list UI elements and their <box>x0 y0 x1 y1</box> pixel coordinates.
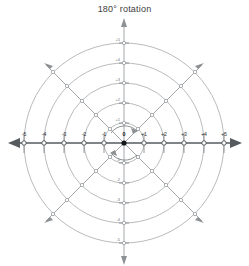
marker-diag-ne1 <box>136 127 139 130</box>
marker-diag-nw1 <box>108 127 111 130</box>
marker-diag-sw2 <box>94 169 97 172</box>
marker-diag-ne2 <box>150 113 153 116</box>
marker-x-plus4 <box>202 141 206 145</box>
label-y-minus2: -2 <box>116 177 120 182</box>
label-y-minus3: -3 <box>116 197 120 202</box>
label-y-plus2: +2 <box>115 97 120 102</box>
marker-x-minus3 <box>62 141 66 145</box>
marker-x-minus2 <box>82 141 86 145</box>
label-y-minus5: -5 <box>116 237 120 242</box>
diagonal-arrow-lower-left <box>44 217 53 223</box>
label-x-plus5: +5 <box>221 131 227 137</box>
horizontal-arrow-left <box>8 138 20 148</box>
marker-x-minus4 <box>42 141 46 145</box>
label-x-minus5: -5 <box>22 131 27 137</box>
marker-y-minus5 <box>122 241 125 244</box>
marker-diag-nw2 <box>94 113 97 116</box>
marker-diag-nw5 <box>51 70 54 73</box>
label-x-plus1: +1 <box>141 131 147 137</box>
marker-x-plus3 <box>182 141 186 145</box>
label-y-plus4: +4 <box>115 57 120 62</box>
marker-y-minus1 <box>122 161 125 164</box>
horizontal-arrow-right <box>230 138 242 148</box>
marker-diag-sw4 <box>65 198 68 201</box>
label-x-plus4: +4 <box>201 131 207 137</box>
label-y-minus4: -4 <box>116 217 120 222</box>
diagonal-arrow-upper-left <box>44 63 53 69</box>
polar-grid-canvas: -5 -4 -3 -2 -1 +1 +2 +3 +4 +5 +1 +2 +3 +… <box>0 0 249 266</box>
marker-y-plus5 <box>122 41 125 44</box>
marker-x-minus1 <box>102 141 106 145</box>
marker-y-plus3 <box>122 81 125 84</box>
marker-diag-se4 <box>179 198 182 201</box>
label-x-minus4: -4 <box>42 131 47 137</box>
marker-y-minus4 <box>122 221 125 224</box>
marker-y-plus4 <box>122 61 125 64</box>
label-x-minus3: -3 <box>62 131 67 137</box>
marker-diag-se5 <box>193 212 196 215</box>
label-x-minus2: -2 <box>82 131 87 137</box>
label-y-plus1: +1 <box>115 117 120 122</box>
marker-diag-se3 <box>164 183 167 186</box>
marker-y-minus2 <box>122 181 125 184</box>
marker-diag-se2 <box>150 169 153 172</box>
marker-y-minus3 <box>122 201 125 204</box>
marker-diag-ne5 <box>193 70 196 73</box>
label-origin: 0 <box>123 131 126 137</box>
label-x-plus2: +2 <box>161 131 167 137</box>
figure-title: 180° rotation <box>0 4 249 14</box>
marker-y-plus1 <box>122 121 125 124</box>
marker-diag-sw1 <box>108 155 111 158</box>
marker-diag-ne4 <box>179 84 182 87</box>
marker-diag-nw3 <box>80 99 83 102</box>
marker-x-minus5 <box>22 141 26 145</box>
diagonal-arrow-upper-right <box>195 63 204 69</box>
label-x-minus1: -1 <box>102 131 107 137</box>
vertical-arrow-up <box>121 18 127 27</box>
rotation-diagram-figure: 180° rotation <box>0 0 249 266</box>
marker-diag-ne3 <box>164 99 167 102</box>
label-y-plus3: +3 <box>115 77 120 82</box>
marker-x-plus2 <box>162 141 166 145</box>
vertical-arrow-down <box>121 256 127 265</box>
diagonal-arrow-lower-right <box>195 217 204 223</box>
marker-diag-nw4 <box>65 84 68 87</box>
marker-diag-sw3 <box>80 183 83 186</box>
label-x-plus3: +3 <box>181 131 187 137</box>
marker-diag-sw5 <box>51 212 54 215</box>
marker-x-plus1 <box>142 141 146 145</box>
label-y-plus5: +5 <box>115 37 120 42</box>
origin-point <box>121 140 126 145</box>
marker-x-plus5 <box>222 141 226 145</box>
marker-diag-se1 <box>136 155 139 158</box>
marker-y-plus2 <box>122 101 125 104</box>
